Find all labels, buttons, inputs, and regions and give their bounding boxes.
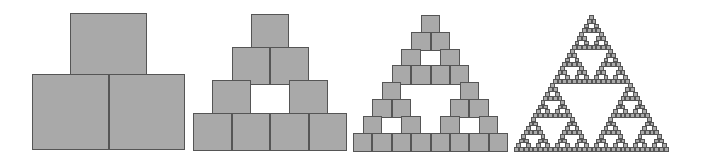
square bbox=[411, 65, 430, 84]
square bbox=[450, 133, 469, 152]
square bbox=[32, 74, 109, 151]
square bbox=[664, 147, 669, 152]
square bbox=[193, 113, 232, 152]
square bbox=[411, 133, 430, 152]
square bbox=[109, 74, 186, 151]
sierpinski-iteration-1 bbox=[32, 13, 185, 150]
square bbox=[469, 133, 488, 152]
square bbox=[372, 133, 391, 152]
fractal-canvas bbox=[0, 0, 704, 160]
square bbox=[353, 133, 372, 152]
square bbox=[431, 65, 450, 84]
sierpinski-iteration-4 bbox=[514, 15, 669, 152]
square bbox=[431, 133, 450, 152]
square bbox=[392, 133, 411, 152]
square bbox=[309, 113, 348, 152]
sierpinski-iteration-3 bbox=[353, 15, 508, 152]
square bbox=[232, 113, 271, 152]
sierpinski-iteration-2 bbox=[193, 14, 347, 151]
square bbox=[270, 113, 309, 152]
square bbox=[489, 133, 508, 152]
